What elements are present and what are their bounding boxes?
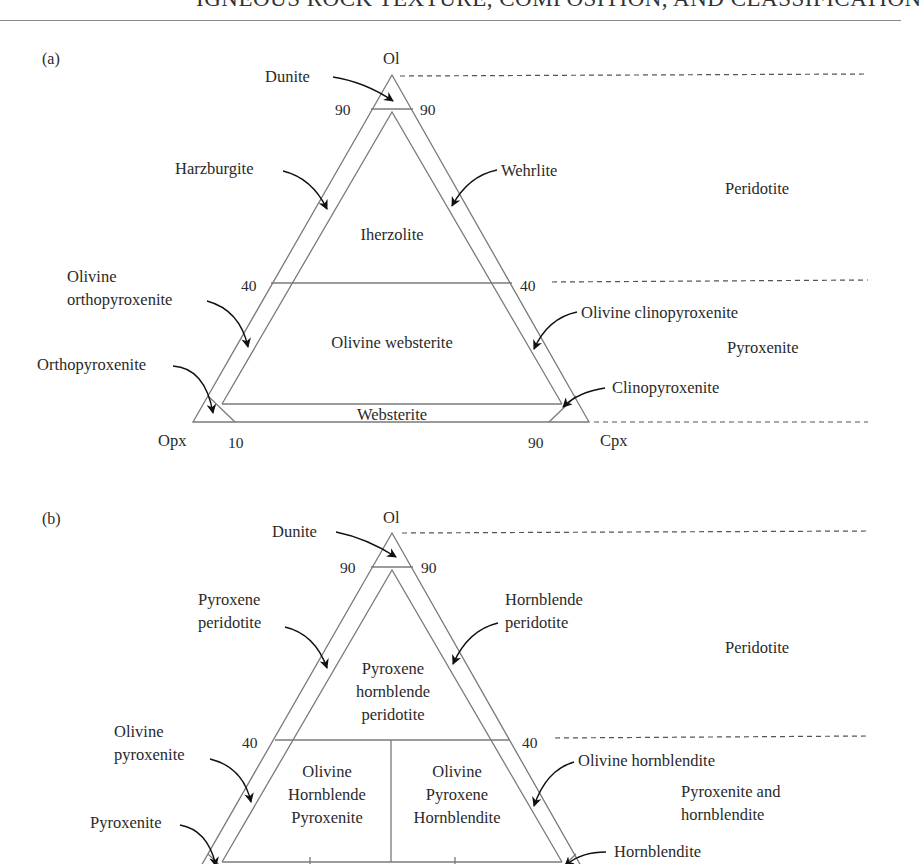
callout-olivine-hornblendite: Olivine hornblendite <box>578 751 715 770</box>
group-peridotite: Peridotite <box>725 179 789 198</box>
tick-40-left-b: 40 <box>242 734 258 751</box>
callout-dunite: Dunite <box>265 67 310 86</box>
field-olivine-websterite: Olivine websterite <box>331 333 452 352</box>
group-peridotite-b: Peridotite <box>725 638 789 657</box>
callout-hornblendite: Hornblendite <box>614 842 701 861</box>
svg-text:hornblende: hornblende <box>356 682 430 701</box>
callout-olivine-pyroxenite-2: pyroxenite <box>114 745 185 764</box>
tick-10-bottom: 10 <box>228 434 244 451</box>
callout-pyroxene-peridotite-1: Pyroxene <box>198 590 260 609</box>
svg-text:peridotite: peridotite <box>361 705 424 724</box>
svg-text:Olivine: Olivine <box>432 762 482 781</box>
tick-90-right-b: 90 <box>421 559 437 576</box>
callout-orthopyroxenite: Orthopyroxenite <box>37 355 146 374</box>
vertex-cpx: Cpx <box>600 431 628 450</box>
tick-40-right: 40 <box>520 277 536 294</box>
callout-dunite-b: Dunite <box>272 522 317 541</box>
svg-text:Olivine: Olivine <box>302 762 352 781</box>
callout-olivine-opx-1: Olivine <box>67 267 117 286</box>
svg-text:Hornblendite: Hornblendite <box>413 808 500 827</box>
panel-a: (a) Ol Opx Cpx 90 90 40 <box>37 49 868 451</box>
panel-b-label: (b) <box>42 510 61 528</box>
field-websterite: Websterite <box>357 405 427 424</box>
vertex-ol: Ol <box>383 49 400 68</box>
panel-a-arrows <box>173 77 605 413</box>
callout-olivine-opx-2: orthopyroxenite <box>67 290 172 309</box>
callout-clinopyroxenite: Clinopyroxenite <box>612 378 719 397</box>
field-olivine-hornblende-pyroxenite: Olivine Hornblende Pyroxenite <box>288 762 366 827</box>
group-pyroxenite-hornblendite-2: hornblendite <box>681 805 764 824</box>
svg-text:Pyroxene: Pyroxene <box>362 659 424 678</box>
tick-90-bottom: 90 <box>528 434 544 451</box>
panel-a-triangle <box>193 75 589 422</box>
callout-olivine-cpx: Olivine clinopyroxenite <box>581 303 738 322</box>
panel-a-label: (a) <box>42 50 60 68</box>
vertex-opx: Opx <box>158 431 187 450</box>
callout-hornblende-peridotite-1: Hornblende <box>505 590 583 609</box>
svg-text:Pyroxenite: Pyroxenite <box>291 808 363 827</box>
tick-40-right-b: 40 <box>522 734 538 751</box>
tick-90-left-b: 90 <box>340 559 356 576</box>
group-pyroxenite: Pyroxenite <box>727 338 799 357</box>
panel-b: (b) Ol 90 90 40 40 Pyroxene hornblende p… <box>42 508 868 864</box>
callout-olivine-pyroxenite-1: Olivine <box>114 722 164 741</box>
svg-text:Hornblende: Hornblende <box>288 785 366 804</box>
tick-90-left: 90 <box>335 101 351 118</box>
vertex-ol-b: Ol <box>383 508 400 527</box>
callout-hornblende-peridotite-2: peridotite <box>505 613 568 632</box>
tick-40-left: 40 <box>241 277 257 294</box>
tick-90-right: 90 <box>420 101 436 118</box>
panel-a-dividers <box>400 74 868 422</box>
callout-pyroxenite-b: Pyroxenite <box>90 813 162 832</box>
callout-harzburgite: Harzburgite <box>175 159 254 178</box>
svg-text:Pyroxene: Pyroxene <box>426 785 488 804</box>
group-pyroxenite-hornblendite-1: Pyroxenite and <box>681 782 781 801</box>
field-iherzolite: Iherzolite <box>360 225 423 244</box>
field-olivine-pyroxene-hornblendite: Olivine Pyroxene Hornblendite <box>413 762 500 827</box>
callout-pyroxene-peridotite-2: peridotite <box>198 613 261 632</box>
field-pyroxene-hornblende-peridotite: Pyroxene hornblende peridotite <box>356 659 430 724</box>
callout-wehrlite: Wehrlite <box>501 161 557 180</box>
